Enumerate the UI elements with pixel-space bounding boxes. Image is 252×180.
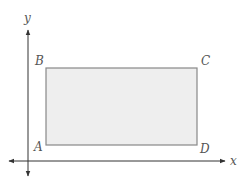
coordinate-diagram: y x B C A D: [0, 0, 252, 180]
rectangle-abcd: [46, 68, 197, 145]
vertex-label-c: C: [201, 54, 210, 68]
vertex-label-a: A: [33, 140, 43, 154]
x-axis-label: x: [230, 154, 237, 168]
vertex-label-b: B: [34, 54, 44, 68]
vertex-label-d: D: [199, 142, 210, 156]
y-axis-label: y: [23, 11, 31, 25]
